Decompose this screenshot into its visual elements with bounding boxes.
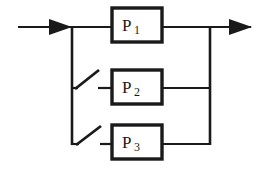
diagram-canvas: P 1 P 2 P 3 <box>0 0 271 173</box>
block-p1-subscript: 1 <box>134 23 140 37</box>
block-p1-label: P <box>122 16 131 35</box>
switch-p2-blade[interactable] <box>75 70 99 89</box>
output-arrow <box>209 19 252 35</box>
input-arrow <box>18 19 72 35</box>
branch-p1: P 1 <box>71 8 211 42</box>
output-arrowhead <box>229 19 252 35</box>
block-diagram: P 1 P 2 P 3 <box>0 0 271 173</box>
block-p3-label: P <box>122 133 131 152</box>
block-p3-subscript: 3 <box>134 140 140 154</box>
block-p2-label: P <box>122 78 131 97</box>
switch-p3-blade[interactable] <box>76 126 101 145</box>
block-p2-subscript: 2 <box>134 85 140 99</box>
input-arrowhead <box>49 19 72 35</box>
branch-p2: P 2 <box>71 70 211 104</box>
branch-p3: P 3 <box>71 125 211 159</box>
